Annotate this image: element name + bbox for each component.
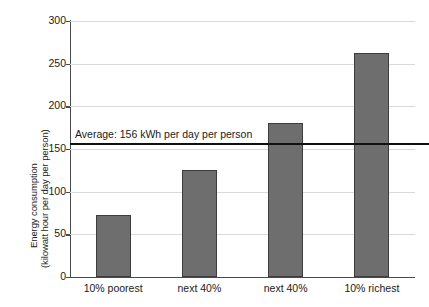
- y-tick-label: 100: [34, 185, 66, 197]
- y-tick-label: 50: [34, 227, 66, 239]
- bar[interactable]: [182, 170, 217, 277]
- bar[interactable]: [96, 215, 131, 277]
- y-tick-label: 150: [34, 142, 66, 154]
- bar[interactable]: [354, 53, 389, 277]
- bar[interactable]: [268, 123, 303, 277]
- energy-consumption-bar-chart: Energy consumption (kilowatt hour per da…: [0, 0, 429, 307]
- y-tick-label: 200: [34, 99, 66, 111]
- average-reference-label: Average: 156 kWh per day per person: [75, 128, 252, 140]
- plot-area: [70, 21, 415, 277]
- average-reference-line: [70, 143, 429, 145]
- gridline: [70, 21, 415, 22]
- y-tick-label: 0: [34, 270, 66, 282]
- y-tick-label: 250: [34, 57, 66, 69]
- y-tick-label: 300: [34, 14, 66, 26]
- x-axis-label: 10% richest: [312, 282, 429, 294]
